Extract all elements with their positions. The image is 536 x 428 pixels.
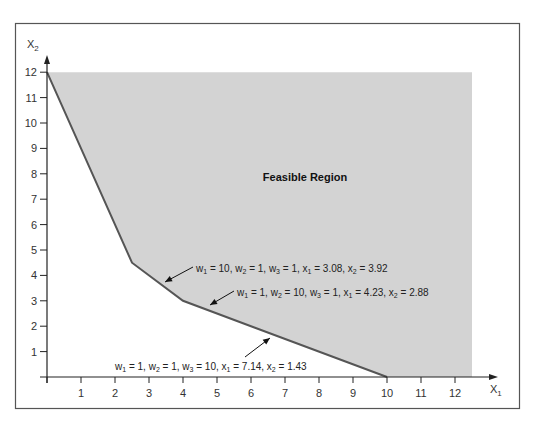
- y-tick-label: 12: [25, 66, 37, 78]
- y-tick-label: 5: [31, 244, 37, 256]
- y-tick-label: 1: [31, 346, 37, 358]
- y-tick-label: 7: [31, 193, 37, 205]
- x-tick-label: 1: [78, 387, 84, 399]
- y-tick-label: 6: [31, 219, 37, 231]
- x-tick-label: 2: [112, 387, 118, 399]
- y-axis-arrow-icon: [44, 55, 50, 64]
- annotation-1: w1 = 10, w2 = 1, w3 = 1, x1 = 3.08, x2 =…: [195, 263, 388, 275]
- x-axis-label: X1: [490, 383, 502, 398]
- feasible-region-chart: 123456789101112123456789101112X2X1Feasib…: [0, 0, 536, 428]
- x-tick-label: 9: [350, 387, 356, 399]
- x-tick-label: 7: [282, 387, 288, 399]
- x-tick-label: 3: [146, 387, 152, 399]
- feasible-region-label: Feasible Region: [263, 171, 348, 183]
- x-tick-label: 5: [214, 387, 220, 399]
- y-tick-label: 9: [31, 142, 37, 154]
- y-tick-label: 3: [31, 295, 37, 307]
- x-tick-label: 12: [449, 387, 461, 399]
- y-tick-label: 8: [31, 168, 37, 180]
- x-tick-label: 10: [381, 387, 393, 399]
- feasible-region-area: [47, 72, 472, 377]
- annotation-2: w1 = 1, w2 = 10, w3 = 1, x1 = 4.23, x2 =…: [236, 287, 429, 299]
- x-tick-label: 8: [316, 387, 322, 399]
- x-tick-label: 11: [415, 387, 426, 399]
- x-tick-label: 4: [180, 387, 186, 399]
- annotation-3: w1 = 1, w2 = 1, w3 = 10, x1 = 7.14, x2 =…: [114, 361, 307, 373]
- y-tick-label: 4: [31, 269, 37, 281]
- x-tick-label: 6: [248, 387, 254, 399]
- arrow-3-head-icon: [263, 338, 270, 345]
- y-axis-label: X2: [27, 38, 39, 53]
- y-tick-label: 10: [25, 117, 37, 129]
- y-tick-label: 11: [26, 92, 37, 104]
- y-tick-label: 2: [31, 320, 37, 332]
- x-axis-arrow-icon: [489, 374, 498, 380]
